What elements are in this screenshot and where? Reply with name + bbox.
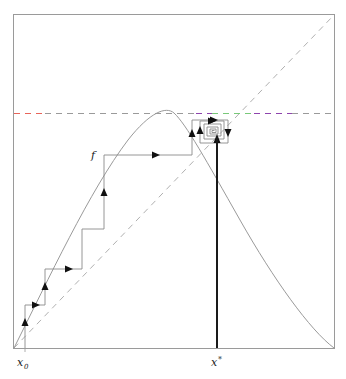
fixed-point-label-x: x bbox=[211, 356, 218, 369]
cobweb-svg: f x 0 x * bbox=[0, 0, 346, 379]
initial-point-label-subscript: 0 bbox=[24, 363, 29, 371]
fixed-point-label-superscript: * bbox=[218, 355, 222, 364]
cobweb-figure: f x 0 x * bbox=[0, 0, 346, 379]
figure-background bbox=[0, 0, 346, 379]
initial-point-label-x: x bbox=[17, 356, 24, 369]
